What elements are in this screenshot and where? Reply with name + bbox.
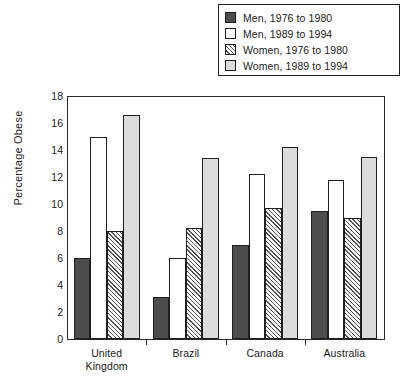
y-tick-label-14: 14 [43, 145, 63, 155]
bar-men76-australia [311, 211, 328, 339]
bar-men89-brazil [169, 258, 186, 339]
y-tick-label-18: 18 [43, 91, 63, 101]
y-tick-label-16: 16 [43, 118, 63, 128]
x-tick-mark-3 [305, 340, 306, 345]
bar-men89-united-kingdom [90, 137, 107, 340]
y-tick-label-4: 4 [43, 280, 63, 290]
bar-men76-canada [232, 245, 249, 340]
bar-men89-canada [249, 174, 266, 339]
bars-layer [67, 96, 384, 339]
legend-item-wom89: Women, 1989 to 1994 [225, 58, 399, 73]
legend-item-men76: Men, 1976 to 1980 [225, 10, 399, 25]
bar-wom89-united-kingdom [123, 115, 140, 339]
legend-swatch-women-1976-1980 [225, 44, 236, 55]
x-tick-mark-2 [226, 340, 227, 345]
y-axis-tick-labels: 181614121086420 [40, 0, 63, 384]
bar-men76-united-kingdom [74, 258, 91, 339]
y-tick-label-12: 12 [43, 172, 63, 182]
bar-wom89-canada [282, 147, 299, 339]
bar-wom76-australia [344, 218, 361, 340]
legend-label-men-1989-1994: Men, 1989 to 1994 [243, 28, 332, 40]
chart-root: Men, 1976 to 1980 Men, 1989 to 1994 Wome… [0, 0, 406, 384]
y-tick-label-2: 2 [43, 307, 63, 317]
legend-label-men-1976-1980: Men, 1976 to 1980 [243, 12, 332, 24]
legend-swatch-women-1989-1994 [225, 60, 236, 71]
bar-wom89-australia [361, 157, 378, 339]
bar-men89-australia [328, 180, 345, 339]
chart-legend: Men, 1976 to 1980 Men, 1989 to 1994 Wome… [218, 4, 400, 76]
bar-wom76-united-kingdom [107, 231, 124, 339]
bar-wom89-brazil [202, 158, 219, 339]
y-axis-title: Percentage Obese [12, 88, 24, 228]
legend-label-women-1989-1994: Women, 1989 to 1994 [243, 60, 348, 72]
x-tick-mark-1 [146, 340, 147, 345]
bar-wom76-brazil [186, 228, 203, 339]
legend-swatch-men-1976-1980 [225, 12, 236, 23]
y-tick-label-6: 6 [43, 253, 63, 263]
bar-men76-brazil [153, 297, 170, 339]
legend-label-women-1976-1980: Women, 1976 to 1980 [243, 44, 348, 56]
y-tick-label-10: 10 [43, 199, 63, 209]
bar-wom76-canada [265, 208, 282, 339]
y-tick-label-8: 8 [43, 226, 63, 236]
x-category-label-australia: Australia [299, 347, 389, 360]
y-tick-label-0: 0 [43, 334, 63, 344]
x-category-label-brazil: Brazil [141, 347, 231, 360]
legend-item-men89: Men, 1989 to 1994 [225, 26, 399, 41]
legend-swatch-men-1989-1994 [225, 28, 236, 39]
legend-item-wom76: Women, 1976 to 1980 [225, 42, 399, 57]
x-category-label-united-kingdom: UnitedKingdom [62, 347, 152, 373]
x-category-label-canada: Canada [220, 347, 310, 360]
